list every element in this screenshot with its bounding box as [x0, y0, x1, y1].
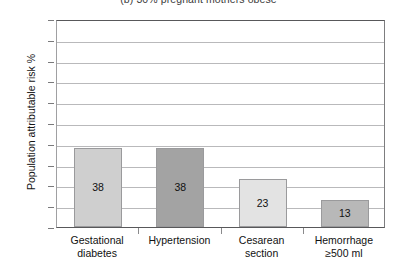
- y-axis-tick-mark: [48, 62, 54, 63]
- bar[interactable]: 38: [156, 148, 204, 227]
- bar[interactable]: 38: [74, 148, 122, 227]
- y-axis-tick-mark: [48, 103, 54, 104]
- x-axis-category-label-line: diabetes: [56, 247, 138, 260]
- bar[interactable]: 13: [321, 200, 369, 227]
- x-axis-category-label: Cesareansection: [221, 234, 303, 259]
- y-axis-tick-mark: [48, 207, 54, 208]
- chart-title: (b) 30% pregnant mothers obese: [0, 0, 397, 5]
- bar-value-label: 13: [322, 207, 368, 219]
- x-axis-category-label-line: Hemorrhage: [303, 234, 385, 247]
- x-axis-category-label-line: Hypertension: [138, 234, 220, 247]
- bar-value-label: 38: [75, 181, 121, 193]
- gridline: [57, 125, 384, 126]
- y-axis-tick-mark: [48, 145, 54, 146]
- y-axis-tick-mark: [48, 124, 54, 125]
- gridline: [57, 104, 384, 105]
- gridline: [57, 42, 384, 43]
- y-axis-tick-mark: [48, 228, 54, 229]
- x-axis-category-label: Gestationaldiabetes: [56, 234, 138, 259]
- plot-area: 38382313: [56, 20, 385, 228]
- x-axis-category-label-line: section: [221, 247, 303, 260]
- x-axis-category-label-line: ≥500 ml: [303, 247, 385, 260]
- x-axis-category-label-line: Cesarean: [221, 234, 303, 247]
- y-axis-tick-mark: [48, 20, 54, 21]
- y-axis-tick-mark: [48, 186, 54, 187]
- chart-container: (b) 30% pregnant mothers obese Populatio…: [0, 0, 397, 266]
- y-axis-tick-mark: [48, 166, 54, 167]
- gridline: [57, 83, 384, 84]
- bar-value-label: 38: [157, 181, 203, 193]
- bar-value-label: 23: [240, 197, 286, 209]
- x-axis-category-label-line: Gestational: [56, 234, 138, 247]
- y-axis-tick-mark: [48, 82, 54, 83]
- y-axis-title: Population attributable risk %: [25, 22, 37, 222]
- y-axis-tick-mark: [48, 41, 54, 42]
- x-axis-category-label: Hypertension: [138, 234, 220, 247]
- gridline: [57, 63, 384, 64]
- bar[interactable]: 23: [239, 179, 287, 227]
- x-axis-category-label: Hemorrhage≥500 ml: [303, 234, 385, 259]
- gridline: [57, 146, 384, 147]
